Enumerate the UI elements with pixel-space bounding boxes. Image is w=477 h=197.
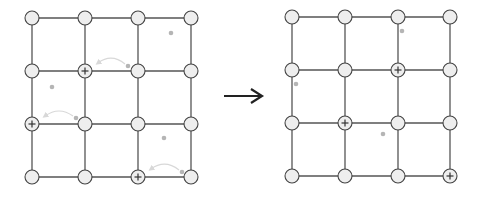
right-node [285,169,299,183]
right-node [391,116,405,130]
left-node [184,117,198,131]
right-node [285,116,299,130]
right-node [285,63,299,77]
grid-transition-diagram [0,0,477,197]
left-dot [162,136,167,141]
right-node [443,10,457,24]
left-node [131,117,145,131]
left-dot [169,31,174,36]
left-dot [74,116,79,121]
left-dot [180,170,185,175]
transition-arrow [224,89,262,103]
left-move-arrow [98,58,125,64]
left-node [78,170,92,184]
left-dot [126,64,131,69]
right-dot [381,132,386,137]
left-node [78,117,92,131]
left-node [25,170,39,184]
right-dot [294,82,299,87]
left-node [25,64,39,78]
left-node [184,11,198,25]
left-node [184,170,198,184]
right-node [285,10,299,24]
right-node [338,169,352,183]
left-grid [25,11,198,184]
left-node [184,64,198,78]
right-node [391,10,405,24]
right-dot [400,29,405,34]
right-node [338,10,352,24]
left-move-arrow [45,111,73,116]
left-node [131,64,145,78]
right-node [443,116,457,130]
left-node [78,11,92,25]
left-dot [50,85,55,90]
right-node [338,63,352,77]
right-node [391,169,405,183]
left-node [131,11,145,25]
left-node [25,11,39,25]
right-node [443,63,457,77]
left-move-arrow [151,164,179,170]
right-grid [285,10,457,183]
